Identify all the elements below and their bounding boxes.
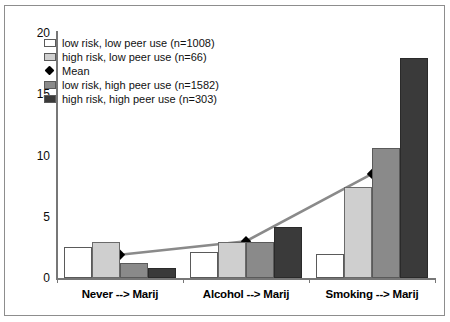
chart-figure: 20151050 Never --> MarijAlcohol --> Mari… — [0, 0, 450, 322]
bar — [274, 227, 302, 278]
x-tick — [435, 278, 436, 283]
chart-legend: low risk, low peer use (n=1008)high risk… — [44, 36, 264, 106]
bar — [64, 247, 92, 278]
legend-label: high risk, high peer use (n=303) — [62, 94, 217, 105]
bar — [246, 242, 274, 278]
legend-label: high risk, low peer use (n=66) — [62, 52, 207, 63]
legend-item[interactable]: high risk, high peer use (n=303) — [44, 92, 264, 106]
bar — [190, 252, 218, 278]
x-group-label: Alcohol --> Marij — [183, 288, 309, 300]
y-tick-label: 0 — [16, 272, 50, 284]
legend-label: low risk, low peer use (n=1008) — [62, 38, 215, 49]
legend-item[interactable]: low risk, high peer use (n=1582) — [44, 78, 264, 92]
legend-item[interactable]: high risk, low peer use (n=66) — [44, 50, 264, 64]
bar — [120, 263, 148, 278]
bar — [218, 242, 246, 278]
bar — [344, 187, 372, 278]
legend-swatch-icon — [44, 95, 56, 103]
y-tick-label: 10 — [16, 150, 50, 162]
legend-item[interactable]: low risk, low peer use (n=1008) — [44, 36, 264, 50]
bar — [92, 242, 120, 278]
y-tick-label: 5 — [16, 211, 50, 223]
x-tick — [309, 278, 310, 283]
bar — [400, 58, 428, 279]
legend-swatch-icon — [44, 39, 56, 47]
x-group-label: Never --> Marij — [57, 288, 183, 300]
legend-item[interactable]: Mean — [44, 64, 264, 78]
mean-diamond-icon — [44, 66, 56, 76]
legend-label: low risk, high peer use (n=1582) — [62, 80, 219, 91]
x-group-label: Smoking --> Marij — [309, 288, 435, 300]
bar — [316, 254, 344, 279]
x-axis-line — [56, 278, 436, 280]
legend-swatch-icon — [44, 53, 56, 61]
x-tick — [183, 278, 184, 283]
bar — [372, 148, 400, 278]
x-tick — [57, 278, 58, 283]
legend-label: Mean — [62, 66, 90, 77]
bar — [148, 268, 176, 278]
legend-swatch-icon — [44, 81, 56, 89]
